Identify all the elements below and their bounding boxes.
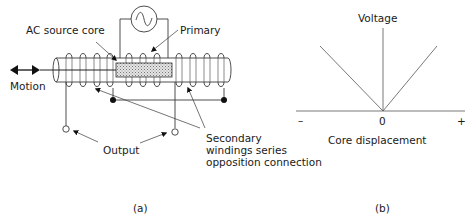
label-primary: Primary — [180, 24, 221, 36]
output-terminal-right — [172, 129, 178, 135]
primary-lead-right — [157, 19, 168, 58]
caption-b: (b) — [375, 202, 390, 214]
tick-minus: – — [298, 114, 303, 126]
v-line-left — [320, 46, 383, 111]
label-secondary-3: opposition connection — [206, 156, 322, 168]
caption-a: (a) — [133, 202, 148, 214]
v-line-right — [383, 46, 437, 111]
x-axis-label: Core displacement — [328, 134, 426, 146]
y-axis-label: Voltage — [358, 12, 397, 24]
motion-double-arrow-icon — [10, 65, 40, 75]
label-secondary-2: windings series — [206, 144, 287, 156]
panel-b-graph — [296, 28, 465, 111]
label-secondary-1: Secondary — [206, 132, 262, 144]
secondary-wire-mid — [113, 88, 224, 100]
ac-source-icon — [131, 6, 157, 32]
label-motion: Motion — [10, 80, 46, 92]
primary-lead-left — [120, 19, 131, 58]
output-terminal-left — [63, 126, 69, 132]
tick-zero: 0 — [379, 115, 386, 127]
label-ac-source-core: AC source core — [26, 24, 105, 36]
label-output: Output — [103, 144, 139, 156]
movable-core — [116, 63, 172, 77]
tick-plus: + — [457, 115, 466, 127]
